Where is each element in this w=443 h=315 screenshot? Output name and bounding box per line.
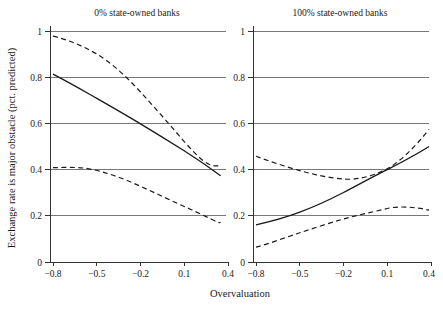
ytick-label-4: 0.8 <box>30 73 42 83</box>
xtick-label-2: −0.2 <box>132 269 149 279</box>
xtick-label-r-4: 0.4 <box>423 269 435 279</box>
figure-container: 0% state-owned banks 1 0.8 <box>0 0 443 315</box>
curve-left-lower <box>53 167 221 222</box>
curve-right-lower <box>256 207 429 247</box>
panel-right-gridlines <box>253 31 429 216</box>
ytick-label-2: 0.4 <box>30 165 42 175</box>
ytick-label-r-3: 0.6 <box>233 119 245 129</box>
chart-svg: 0% state-owned banks 1 0.8 <box>0 0 443 315</box>
panel-left-curves <box>53 36 221 222</box>
panel-right-x-ticks <box>256 262 431 266</box>
panel-right-x-ticklabels: −0.8 −0.5 −0.2 0.1 0.4 <box>247 269 435 279</box>
xtick-label-r-0: −0.8 <box>247 269 264 279</box>
xtick-label-r-1: −0.5 <box>291 269 308 279</box>
curve-left-center <box>53 74 221 176</box>
curve-left-upper <box>53 36 221 166</box>
xtick-label-1: −0.5 <box>88 269 105 279</box>
ytick-label-1: 0.2 <box>30 211 42 221</box>
ytick-label-3: 0.6 <box>30 119 42 129</box>
panel-right-y-ticks <box>248 31 253 262</box>
ytick-label-5: 1 <box>37 27 42 37</box>
panel-right-title: 100% state-owned banks <box>293 8 388 18</box>
panel-right-curves <box>256 129 429 247</box>
ytick-label-r-1: 0.2 <box>233 211 245 221</box>
ytick-label-r-4: 0.8 <box>233 73 245 83</box>
xtick-label-3: 0.1 <box>178 269 190 279</box>
xtick-label-4: 0.4 <box>222 269 234 279</box>
panel-left-y-ticks <box>45 31 50 262</box>
xtick-label-r-3: 0.1 <box>381 269 393 279</box>
panel-left: 0% state-owned banks 1 0.8 <box>30 8 234 279</box>
panel-left-title: 0% state-owned banks <box>94 8 180 18</box>
panel-right-y-ticklabels: 1 0.8 0.6 0.4 0.2 0 <box>233 27 245 268</box>
curve-right-center <box>256 147 429 225</box>
panel-right: 100% state-owned banks 1 0.8 <box>233 8 435 279</box>
panel-left-x-ticks <box>53 262 228 266</box>
ytick-label-0: 0 <box>37 258 42 268</box>
x-axis-title: Overvaluation <box>210 288 271 299</box>
xtick-label-r-2: −0.2 <box>335 269 352 279</box>
panel-left-gridlines <box>50 31 226 216</box>
ytick-label-r-2: 0.4 <box>233 165 245 175</box>
xtick-label-0: −0.8 <box>44 269 61 279</box>
ytick-label-r-5: 1 <box>240 27 245 37</box>
panel-left-x-ticklabels: −0.8 −0.5 −0.2 0.1 0.4 <box>44 269 234 279</box>
ytick-label-r-0: 0 <box>240 258 245 268</box>
y-axis-title: Exchange rate is major obstacle (pct. pr… <box>6 47 18 248</box>
curve-right-upper <box>256 129 429 179</box>
panel-left-y-ticklabels: 1 0.8 0.6 0.4 0.2 0 <box>30 27 42 268</box>
